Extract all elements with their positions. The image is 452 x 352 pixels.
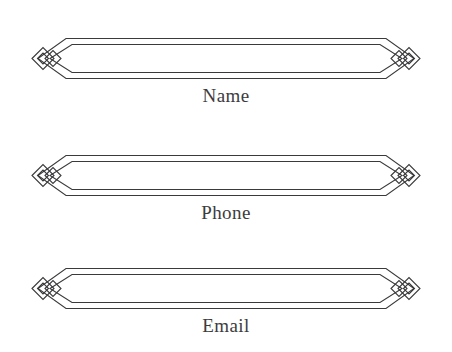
phone-label: Phone	[0, 201, 452, 225]
email-label: Email	[0, 314, 452, 338]
name-input[interactable]	[62, 44, 382, 72]
field-group-name: Name	[0, 12, 452, 122]
email-input[interactable]	[62, 274, 382, 302]
phone-input[interactable]	[62, 161, 382, 189]
field-group-phone: Phone	[0, 129, 452, 239]
ornamental-contact-form: Name Phone	[0, 0, 452, 352]
name-label: Name	[0, 84, 452, 108]
field-group-email: Email	[0, 242, 452, 352]
